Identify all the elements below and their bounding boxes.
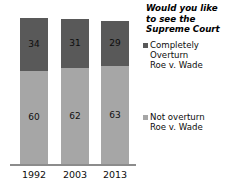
x-axis-line (10, 164, 136, 166)
bar-segment-not-overturn-2013[interactable]: 63 (101, 66, 129, 165)
stacked-bar-2013: 29 63 (101, 21, 129, 165)
legend-square-icon (143, 43, 148, 48)
bar-segment-overturn-2003[interactable]: 31 (61, 19, 89, 68)
bar-value-label: 60 (28, 113, 39, 122)
legend-item-overturn[interactable]: Completely Overturn Roe v. Wade (143, 40, 229, 70)
stacked-bar-chart: 34 60 31 62 29 (0, 0, 229, 193)
legend-item-label: Completely Overturn Roe v. Wade (150, 40, 203, 70)
legend-item-label: Not overturn Roe v. Wade (150, 112, 205, 132)
plot-area: 34 60 31 62 29 (0, 0, 140, 193)
legend-label-line-2: Overturn (150, 50, 188, 60)
stacked-bar-1992: 34 60 (20, 18, 48, 165)
stacked-bar-2003: 31 62 (61, 19, 89, 165)
legend-label-line-1: Not overturn (150, 112, 205, 122)
bar-segment-not-overturn-2003[interactable]: 62 (61, 68, 89, 165)
x-axis-tick-label-2003: 2003 (55, 170, 95, 180)
bar-segment-not-overturn-1992[interactable]: 60 (20, 71, 48, 165)
chart-title-line-2: to see the (146, 14, 229, 25)
x-axis-tick-label-1992: 1992 (14, 170, 54, 180)
legend-panel: Would you like to see the Supreme Court … (141, 0, 229, 193)
bar-value-label: 29 (109, 39, 120, 48)
x-axis-tick-label-2013: 2013 (95, 170, 135, 180)
bar-value-label: 63 (109, 111, 120, 120)
legend-item-not-overturn[interactable]: Not overturn Roe v. Wade (143, 112, 229, 132)
bar-segment-overturn-2013[interactable]: 29 (101, 21, 129, 66)
legend-label-line-2: Roe v. Wade (150, 122, 203, 132)
bar-value-label: 62 (69, 112, 80, 121)
chart-title: Would you like to see the Supreme Court (146, 3, 229, 35)
bar-value-label: 34 (28, 40, 39, 49)
chart-title-line-3: Supreme Court (146, 24, 229, 35)
chart-title-line-1: Would you like (146, 3, 229, 14)
legend-label-line-3: Roe v. Wade (150, 60, 203, 70)
bar-value-label: 31 (69, 39, 80, 48)
legend-label-line-1: Completely (150, 40, 199, 50)
legend-square-icon (143, 115, 148, 120)
bar-segment-overturn-1992[interactable]: 34 (20, 18, 48, 71)
